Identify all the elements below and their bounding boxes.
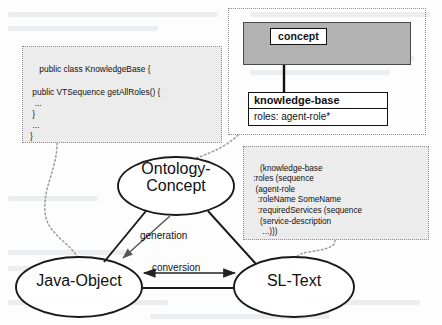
uml-class-attribute: roles: agent-role* <box>249 109 387 125</box>
diagram-canvas: public class KnowledgeBase { public VTSe… <box>0 0 442 325</box>
edge-label-conversion: conversion <box>152 262 200 273</box>
java-code-text: public class KnowledgeBase { public VTSe… <box>30 64 160 141</box>
connector-java-code-to-java-object <box>45 143 80 262</box>
uml-class-name: knowledge-base <box>249 93 387 109</box>
sl-text-code-box: (knowledge-base :roles (sequence (agent-… <box>243 146 429 240</box>
node-java-object[interactable] <box>16 257 142 317</box>
java-code-box: public class KnowledgeBase { public VTSe… <box>22 46 222 143</box>
edge-label-generation: generation <box>140 230 187 241</box>
uml-concept-label: concept <box>270 28 327 45</box>
node-ontology-concept[interactable] <box>118 157 234 215</box>
uml-concept-package <box>243 22 411 65</box>
uml-knowledge-base-class: knowledge-base roles: agent-role* <box>248 92 388 126</box>
node-sl-text[interactable] <box>234 257 354 317</box>
sl-code-text: (knowledge-base :roles (sequence (agent-… <box>251 164 362 237</box>
